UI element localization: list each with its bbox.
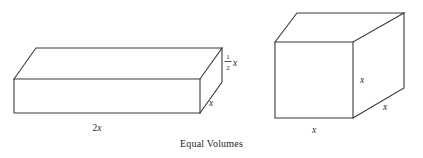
height-fraction-numerator: 1 bbox=[226, 53, 230, 61]
flat-prism-top-face bbox=[14, 48, 222, 79]
cube-depth-label: x bbox=[382, 102, 388, 112]
cube-width-label: x bbox=[311, 125, 317, 135]
figure-caption: Equal Volumes bbox=[0, 138, 423, 149]
flat-prism-width-label: 2x bbox=[93, 123, 103, 133]
flat-prism-height-label: 1 2 x bbox=[225, 53, 239, 72]
flat-prism-group: 1 2 x x 2x bbox=[14, 48, 238, 133]
flat-prism-front-face bbox=[14, 79, 200, 113]
equal-volumes-figure: 1 2 x x 2x x x bbox=[0, 0, 423, 158]
flat-prism-depth-label: x bbox=[208, 98, 214, 108]
cube-height-label: x bbox=[359, 75, 365, 85]
height-fraction-denominator: 2 bbox=[226, 64, 230, 72]
cube-front-face bbox=[275, 42, 353, 118]
cube-group: x x x bbox=[275, 13, 404, 135]
height-fraction-variable: x bbox=[232, 58, 238, 68]
prisms-svg: 1 2 x x 2x x x bbox=[0, 0, 423, 158]
